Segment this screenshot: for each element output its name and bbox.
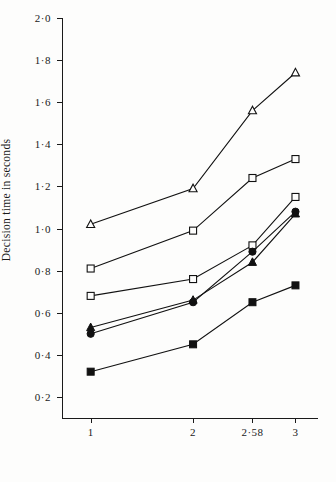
x-tick-label: 3 [293,426,299,438]
series-open-triangle [87,68,300,227]
y-axis-title: Decision time in seconds [0,139,12,262]
x-axis-line [62,418,318,419]
decision-time-chart: Decision time in seconds 0·20·40·60·81·0… [0,0,336,482]
data-point-square-filled [87,368,94,375]
series-open-square [87,156,299,272]
x-tick-mark [91,418,92,423]
series-line [91,73,296,225]
data-point-square-open [190,276,197,283]
y-tick-label: 2·0 [35,12,51,24]
data-point-triangle-open [291,68,299,76]
y-tick-label: 0·2 [35,391,51,403]
data-point-triangle-open [248,106,256,114]
x-tick-label: 2·58 [242,426,264,438]
y-tick-label: 0·6 [35,307,51,319]
data-point-square-open [292,156,299,163]
x-tick-mark [193,418,194,423]
y-tick-label: 1·8 [35,54,51,66]
x-tick-label: 2 [190,426,196,438]
y-tick-label: 0·4 [35,349,51,361]
y-tick-label: 1·6 [35,96,51,108]
plot-area: 0·20·40·60·81·01·21·41·61·82·0 122·583 [62,18,318,418]
series-layer [62,18,318,418]
data-point-circle-filled [87,330,94,337]
data-point-circle-filled [249,248,256,255]
data-point-square-filled [190,341,197,348]
y-tick-label: 1·0 [35,223,51,235]
x-tick-label: 1 [88,426,94,438]
data-point-square-open [292,193,299,200]
data-point-square-filled [249,299,256,306]
y-tick-label: 0·8 [35,265,51,277]
x-tick-mark [252,418,253,423]
y-tick-label: 1·4 [35,138,51,150]
y-tick-label: 1·2 [35,180,51,192]
data-point-square-open [87,292,94,299]
data-point-square-filled [292,282,299,289]
data-point-square-open [190,227,197,234]
x-tick-mark [295,418,296,423]
data-point-square-open [249,175,256,182]
data-point-square-open [87,265,94,272]
